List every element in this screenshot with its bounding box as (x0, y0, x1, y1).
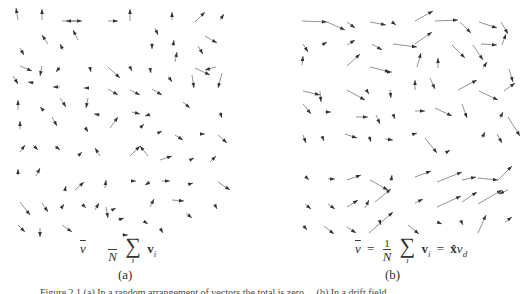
arrow-icon (108, 67, 120, 78)
arrow-icon (200, 132, 205, 136)
arrow-icon (111, 208, 116, 212)
arrow-icon (38, 228, 42, 237)
arrow-icon (183, 102, 190, 108)
arrow-icon (13, 76, 18, 84)
arrow-icon (347, 90, 365, 100)
arrow-icon (213, 204, 217, 209)
vector-field-a (0, 0, 265, 240)
arrow-icon (60, 98, 66, 107)
arrow-icon (105, 207, 109, 218)
arrow-icon (95, 148, 100, 156)
formula-b-sum: ∑ i (400, 236, 416, 265)
arrow-icon (425, 138, 437, 153)
arrow-icon (171, 40, 175, 46)
arrow-icon (505, 217, 512, 222)
arrow-icon (325, 110, 331, 114)
arrow-icon (42, 35, 48, 44)
arrow-icon (16, 100, 20, 110)
arrow-icon (157, 131, 162, 135)
arrow-icon (502, 34, 506, 45)
arrow-icon (162, 179, 170, 183)
arrow-icon (415, 171, 431, 177)
arrow-icon (303, 135, 306, 143)
arrow-icon (110, 117, 118, 128)
formula-b-denominator: N (383, 250, 392, 264)
arrow-icon (60, 44, 64, 50)
arrow-icon (328, 204, 335, 209)
arrow-icon (436, 58, 440, 68)
arrow-icon (140, 146, 148, 156)
arrow-icon (20, 48, 24, 55)
arrow-icon (139, 124, 144, 129)
arrow-icon (413, 80, 417, 90)
formula-b-lhs: v (355, 241, 361, 256)
arrow-icon (55, 145, 60, 150)
arrow-icon (148, 68, 152, 73)
arrow-icon (15, 8, 19, 20)
arrow-icon (415, 32, 432, 44)
formula-a-denominator: N (108, 250, 117, 264)
arrow-icon (191, 75, 195, 88)
arrow-icon (131, 179, 136, 183)
arrow-icon (219, 112, 222, 118)
arrow-icon (322, 42, 327, 46)
arrow-icon (159, 228, 163, 233)
arrow-icon (304, 175, 309, 180)
arrow-icon (152, 89, 162, 95)
formula-b-equals: = (367, 241, 374, 256)
arrow-icon (303, 44, 308, 52)
arrow-icon (186, 213, 192, 218)
arrow-icon (130, 146, 140, 156)
arrow-icon (62, 225, 72, 232)
arrow-icon (347, 40, 355, 45)
arrow-icon (498, 166, 512, 180)
arrow-icon (218, 182, 230, 190)
panel-b-drift-vector-field (265, 0, 531, 240)
arrow-icon (389, 175, 393, 181)
arrow-icon (324, 226, 334, 234)
arrow-icon (56, 67, 61, 72)
arrow-icon (18, 225, 25, 232)
arrow-icon (504, 83, 515, 91)
arrow-icon (412, 133, 417, 136)
figure-caption: Figure 2.1 (a) In a random arrangement o… (40, 287, 531, 294)
arrow-icon (85, 98, 89, 108)
arrow-icon (370, 180, 388, 190)
formula-a-summand-sub: i (154, 249, 157, 259)
panel-b-label: (b) (385, 267, 400, 283)
arrow-icon (220, 14, 224, 20)
arrow-icon (205, 67, 216, 70)
arrow-icon (128, 66, 132, 71)
arrow-icon (66, 19, 78, 23)
arrow-icon (20, 202, 30, 215)
arrow-icon (302, 225, 307, 230)
arrow-icon (302, 20, 327, 24)
arrow-icon (347, 175, 361, 180)
arrow-icon (347, 54, 360, 66)
arrow-icon (39, 66, 43, 76)
vector-field-b (265, 0, 531, 240)
arrow-icon (130, 90, 140, 95)
formula-b: v = 1 N ∑ i vi = x̂vd (355, 236, 467, 265)
formula-a: v N ∑ i vi (80, 236, 156, 265)
arrow-icon (462, 176, 476, 180)
arrow-icon (18, 121, 22, 129)
arrow-icon (452, 45, 465, 58)
arrow-icon (88, 67, 91, 72)
arrow-icon (160, 156, 172, 160)
arrow-icon (20, 145, 25, 152)
arrow-icon (387, 70, 392, 74)
arrow-icon (320, 136, 324, 141)
formula-b-summand-sub: i (428, 249, 431, 259)
arrow-icon (345, 134, 357, 138)
arrow-icon (52, 117, 57, 126)
arrow-icon (462, 192, 477, 202)
arrow-icon (170, 12, 174, 20)
formula-a-fraction: N (108, 238, 117, 264)
arrow-icon (188, 183, 193, 186)
arrow-icon (73, 30, 78, 40)
arrow-icon (415, 199, 423, 203)
panel-a-random-vector-field (0, 0, 265, 240)
formula-a-sum: ∑ i (125, 236, 141, 265)
arrow-icon (42, 203, 48, 212)
